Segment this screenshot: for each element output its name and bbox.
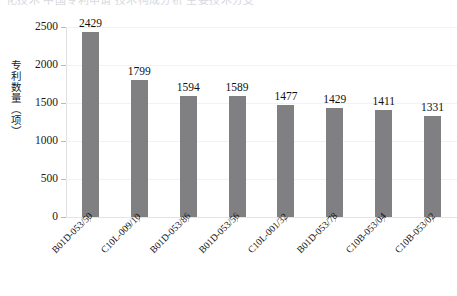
bar-value-label: 2429 bbox=[68, 18, 112, 30]
y-axis-tick bbox=[61, 179, 66, 180]
bar-value-label: 1477 bbox=[264, 91, 308, 103]
bar-chart: 专利数量（项） 05001000150020002500 24291799159… bbox=[0, 0, 457, 296]
bar[interactable] bbox=[131, 80, 148, 217]
bar-value-label: 1331 bbox=[411, 102, 455, 114]
bar[interactable] bbox=[180, 96, 197, 217]
bar-value-label: 1589 bbox=[215, 82, 259, 94]
bar[interactable] bbox=[326, 108, 343, 217]
bar-value-label: 1429 bbox=[313, 94, 357, 106]
bar[interactable] bbox=[424, 116, 441, 217]
y-axis-tick bbox=[61, 217, 66, 218]
y-axis-tick-labels: 05001000150020002500 bbox=[0, 27, 58, 218]
bar-value-label: 1799 bbox=[117, 66, 161, 78]
gridline bbox=[66, 179, 457, 180]
y-axis-tick bbox=[61, 103, 66, 104]
y-axis-tick-label: 2000 bbox=[2, 59, 58, 71]
gridline bbox=[66, 217, 457, 218]
y-axis-tick-label: 1500 bbox=[2, 97, 58, 109]
bar-value-label: 1594 bbox=[166, 82, 210, 94]
y-axis-tick-label: 500 bbox=[2, 173, 58, 185]
bar[interactable] bbox=[82, 32, 99, 217]
gridline bbox=[66, 27, 457, 28]
bar[interactable] bbox=[375, 110, 392, 217]
bar[interactable] bbox=[229, 96, 246, 217]
y-axis-tick-label: 1000 bbox=[2, 135, 58, 147]
bar[interactable] bbox=[277, 105, 294, 217]
y-axis-tick-label: 0 bbox=[2, 211, 58, 223]
y-axis-tick-label: 2500 bbox=[2, 21, 58, 33]
gridline bbox=[66, 141, 457, 142]
plot-area: 24291799159415891477142914111331 bbox=[66, 27, 457, 217]
y-axis-tick bbox=[61, 27, 66, 28]
y-axis-tick bbox=[61, 141, 66, 142]
bar-value-label: 1411 bbox=[362, 96, 406, 108]
y-axis-tick bbox=[61, 65, 66, 66]
